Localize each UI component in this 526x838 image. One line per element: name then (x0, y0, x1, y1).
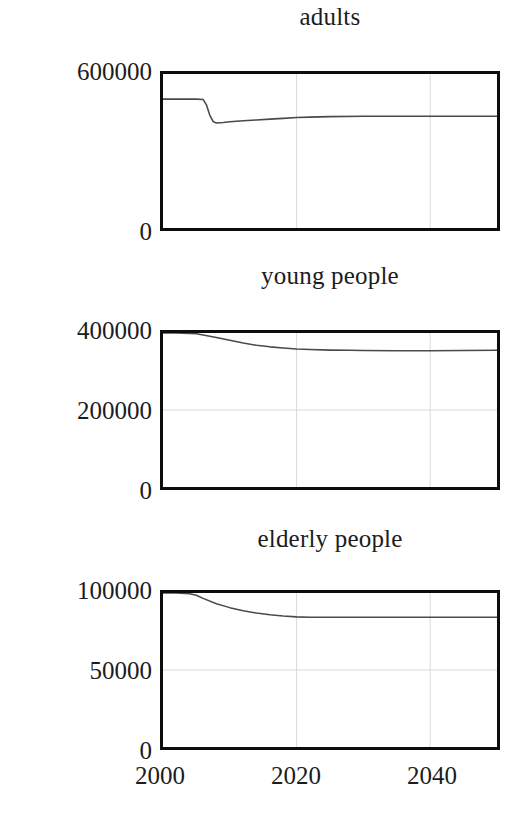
x-tick-label-2020: 2020 (256, 763, 336, 788)
data-line-young-people (163, 333, 497, 351)
plot-inner-young-people (163, 333, 497, 487)
plot-inner-adults (163, 74, 497, 228)
series-svg-elderly-people (163, 593, 497, 747)
y-tick-label-elderly-max: 100000 (0, 578, 152, 603)
figure-multi-panel-line-charts: adults 600000 0 young people 400000 2000… (0, 0, 526, 838)
panel-elderly-people: elderly people 100000 50000 0 2000 2020 … (0, 525, 526, 838)
plot-area-adults (160, 71, 500, 231)
panel-young-people: young people 400000 200000 0 (0, 265, 526, 525)
y-tick-label-adults-min: 0 (0, 219, 152, 244)
plot-inner-elderly-people (163, 593, 497, 747)
chart-title-elderly-people: elderly people (160, 524, 500, 554)
y-tick-label-young-min: 0 (0, 478, 152, 503)
data-line-adults (163, 99, 497, 123)
plot-area-elderly-people (160, 590, 500, 750)
series-svg-adults (163, 74, 497, 228)
panel-adults: adults 600000 0 (0, 0, 526, 265)
y-tick-label-young-mid: 200000 (0, 398, 152, 423)
y-tick-label-young-max: 400000 (0, 318, 152, 343)
y-tick-label-adults-max: 600000 (0, 59, 152, 84)
plot-area-young-people (160, 330, 500, 490)
data-line-elderly-people (163, 593, 497, 617)
y-tick-label-elderly-mid: 50000 (0, 658, 152, 683)
x-tick-label-2040: 2040 (392, 763, 472, 788)
series-svg-young-people (163, 333, 497, 487)
y-tick-label-elderly-min: 0 (0, 738, 152, 763)
x-tick-label-2000: 2000 (120, 763, 200, 788)
chart-title-young-people: young people (160, 261, 500, 291)
chart-title-adults: adults (160, 2, 500, 32)
